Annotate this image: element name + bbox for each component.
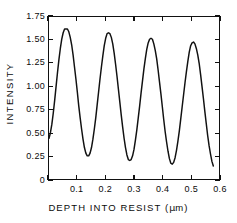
x-tick-top — [47, 16, 48, 21]
x-tick-bottom — [219, 175, 220, 180]
chart-figure: 00.250.500.751.001.251.501.750.10.20.30.… — [0, 0, 237, 223]
y-tick — [215, 133, 220, 134]
y-tick-label: 1.25 — [26, 58, 45, 67]
y-tick — [48, 133, 53, 134]
y-tick — [215, 86, 220, 87]
x-tick-top — [191, 16, 192, 21]
y-tick — [215, 39, 220, 40]
y-tick-label: 1.00 — [26, 82, 45, 91]
y-tick — [48, 109, 53, 110]
y-tick — [48, 179, 53, 180]
x-tick-label: 0.6 — [205, 185, 235, 194]
y-tick-label: 1.75 — [26, 12, 45, 21]
intensity-curve — [49, 17, 219, 179]
y-tick — [215, 109, 220, 110]
x-tick-bottom — [133, 175, 134, 180]
y-tick-label: 0.75 — [26, 105, 45, 114]
x-axis-title-units: m) — [175, 202, 188, 213]
y-tick-label: 1.50 — [26, 35, 45, 44]
y-tick — [48, 86, 53, 87]
x-tick-label: 0.1 — [62, 185, 92, 194]
x-tick-label: 0.2 — [90, 185, 120, 194]
x-axis-title: DEPTH INTO RESIST (µm) — [0, 202, 237, 213]
x-tick-top — [133, 16, 134, 21]
x-axis-title-text: DEPTH INTO RESIST ( — [48, 202, 169, 213]
y-tick-label: 0.25 — [26, 152, 45, 161]
y-tick-label: 0.50 — [26, 129, 45, 138]
y-tick — [215, 156, 220, 157]
x-tick-top — [76, 16, 77, 21]
x-tick-top — [219, 16, 220, 21]
x-tick-label: 0.3 — [119, 185, 149, 194]
y-tick — [48, 156, 53, 157]
plot-area — [48, 16, 220, 180]
y-tick — [48, 15, 53, 16]
y-tick — [48, 39, 53, 40]
x-tick-bottom — [47, 175, 48, 180]
x-tick-top — [105, 16, 106, 21]
x-tick-bottom — [191, 175, 192, 180]
x-tick-label: 0.4 — [148, 185, 178, 194]
x-tick-bottom — [105, 175, 106, 180]
x-tick-bottom — [162, 175, 163, 180]
x-tick-label: 0.5 — [176, 185, 206, 194]
y-axis-title: INTENSITY — [4, 39, 15, 149]
y-tick-label: 0 — [40, 176, 45, 185]
y-tick — [48, 62, 53, 63]
y-tick — [215, 62, 220, 63]
x-tick-top — [162, 16, 163, 21]
x-tick-bottom — [76, 175, 77, 180]
